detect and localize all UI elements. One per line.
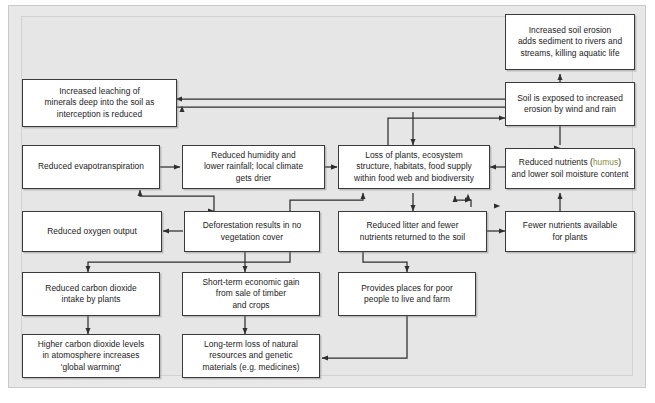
node-label: Reduced evapotranspiration — [27, 161, 155, 172]
node-short-term-economic-gain[interactable]: Short-term economic gain from sale of ti… — [182, 272, 320, 316]
node-label-before: Reduced nutrients ( — [519, 157, 593, 167]
node-label: Reduced nutrients (humus) and lower soil… — [510, 157, 630, 179]
diagram-inner-panel — [21, 16, 633, 376]
node-label: Reduced oxygen output — [27, 226, 157, 237]
node-soil-exposed-erosion[interactable]: Soil is exposed to increased erosion by … — [505, 82, 635, 126]
node-label: Increased leaching of minerals deep into… — [27, 86, 172, 120]
node-reduced-oxygen-output[interactable]: Reduced oxygen output — [22, 211, 162, 252]
node-label: Short-term economic gain from sale of ti… — [187, 277, 315, 311]
node-reduced-nutrients[interactable]: Reduced nutrients (humus) and lower soil… — [505, 148, 635, 189]
node-reduced-evapotranspiration[interactable]: Reduced evapotranspiration — [22, 145, 160, 189]
node-label: Deforestation results in no vegetation c… — [189, 220, 315, 242]
node-fewer-nutrients[interactable]: Fewer nutrients available for plants — [505, 211, 635, 252]
node-label: Reduced humidity and lower rainfall; loc… — [187, 150, 320, 184]
diagram-root: Increased soil erosion adds sediment to … — [0, 0, 655, 403]
node-label-highlight: humus — [593, 157, 618, 167]
node-increased-leaching[interactable]: Increased leaching of minerals deep into… — [22, 79, 177, 127]
node-loss-of-plants[interactable]: Loss of plants, ecosystem structure, hab… — [338, 145, 490, 189]
node-label: Increased soil erosion adds sediment to … — [510, 25, 630, 59]
node-label: Provides places for poor people to live … — [343, 283, 471, 305]
node-label: Fewer nutrients available for plants — [510, 220, 630, 242]
node-reduced-co2-intake[interactable]: Reduced carbon dioxide intake by plants — [22, 272, 160, 316]
node-reduced-humidity[interactable]: Reduced humidity and lower rainfall; loc… — [182, 145, 325, 189]
node-reduced-litter[interactable]: Reduced litter and fewer nutrients retur… — [338, 211, 487, 252]
node-higher-co2-levels[interactable]: Higher carbon dioxide levels in atomosph… — [22, 334, 160, 378]
node-label: Loss of plants, ecosystem structure, hab… — [343, 150, 485, 184]
node-label: Soil is exposed to increased erosion by … — [510, 93, 630, 115]
node-label: Reduced litter and fewer nutrients retur… — [343, 220, 482, 242]
node-label: Long-term loss of natural resources and … — [187, 339, 315, 373]
node-provides-places[interactable]: Provides places for poor people to live … — [338, 272, 476, 316]
node-increased-soil-erosion[interactable]: Increased soil erosion adds sediment to … — [505, 14, 635, 70]
node-label: Higher carbon dioxide levels in atomosph… — [27, 339, 155, 373]
node-label: Reduced carbon dioxide intake by plants — [27, 283, 155, 305]
node-deforestation[interactable]: Deforestation results in no vegetation c… — [184, 211, 320, 252]
node-long-term-loss[interactable]: Long-term loss of natural resources and … — [182, 334, 320, 378]
